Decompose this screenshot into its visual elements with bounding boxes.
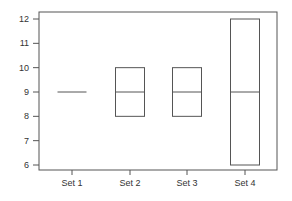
y-tick-label: 7	[24, 136, 29, 146]
x-tick-label: Set 1	[61, 178, 82, 188]
y-tick-label: 11	[20, 38, 29, 48]
x-tick-label: Set 2	[119, 178, 140, 188]
y-tick-label: 8	[24, 111, 29, 121]
y-tick-label: 6	[24, 160, 29, 170]
y-tick-label: 10	[19, 63, 29, 73]
x-tick-label: Set 4	[234, 178, 255, 188]
x-tick-label: Set 3	[176, 178, 197, 188]
y-tick-label: 9	[24, 87, 29, 97]
y-tick-label: 12	[19, 14, 29, 24]
box-plot-chart: 6789101112Set 1Set 2Set 3Set 4	[0, 0, 292, 201]
plot-frame	[39, 12, 277, 170]
